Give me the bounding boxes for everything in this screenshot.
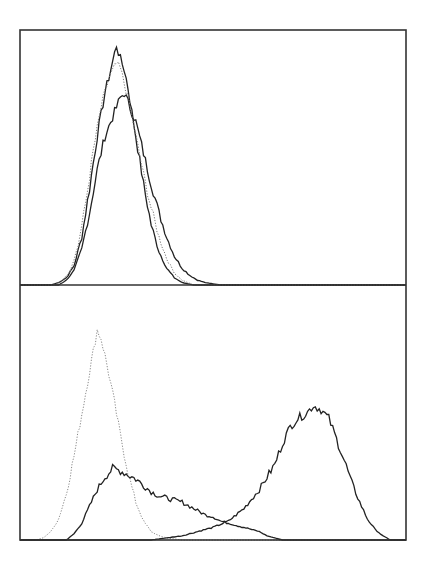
top-histogram-panel [20,47,406,285]
bottom-histogram-panel [20,330,406,540]
histogram-trace-solid-tall [20,47,406,285]
histogram-trace-solid-high [20,407,406,540]
histogram-chart [0,0,426,570]
histogram-trace-solid-shifted [20,95,406,285]
histogram-trace-solid-broad [20,465,406,540]
histogram-figure [0,0,426,570]
histogram-trace-dotted-isotype [20,330,406,540]
